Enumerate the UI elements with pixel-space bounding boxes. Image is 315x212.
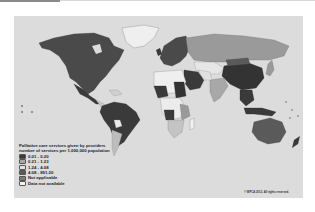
legend-item: Data not available <box>19 181 110 186</box>
top-edge-line <box>60 0 315 1</box>
legend-swatch <box>19 176 26 181</box>
legend-swatch <box>19 165 26 170</box>
legend-swatch <box>19 154 26 159</box>
legend-swatch <box>19 170 26 175</box>
region-sudan <box>174 82 186 98</box>
world-map: Palliative care services given by provid… <box>14 16 303 198</box>
legend-swatch <box>19 159 26 164</box>
copyright-notice: © WPCA 2012. All rights reserved. <box>244 190 289 194</box>
top-edge-bar <box>0 0 60 2</box>
legend-label: Data not available <box>28 181 65 186</box>
legend-swatch <box>19 181 26 186</box>
map-legend: Palliative care services given by provid… <box>19 143 110 186</box>
region-madagascar <box>190 118 194 130</box>
